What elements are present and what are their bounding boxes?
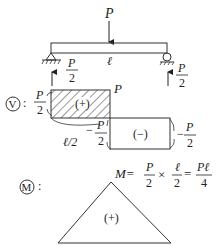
formula-f2-num: ℓ <box>175 160 180 174</box>
shear-colon: : <box>23 96 26 110</box>
right-reaction-den: 2 <box>179 76 185 90</box>
formula-f3-num: Pℓ <box>196 160 209 174</box>
shear-mid-den: 2 <box>98 134 104 148</box>
shear-negative-sign: (−) <box>133 127 148 141</box>
moment-diagram: M : M= P 2 × ℓ 2 = Pℓ 4 (+) <box>20 160 212 243</box>
shear-top-right-label: P <box>113 81 122 96</box>
moment-colon: : <box>38 179 41 193</box>
shear-left-num: P <box>35 88 44 102</box>
right-reaction-num: P <box>177 61 186 75</box>
load-label: P <box>104 6 114 21</box>
left-reaction-num: P <box>67 56 76 70</box>
formula-f2-den: 2 <box>174 176 180 190</box>
beam-section: P P 2 ℓ P 2 <box>42 6 188 90</box>
shear-diagram: V : P 2 (+) P (−) ℓ/2 − P 2 − P 2 <box>6 81 196 150</box>
beam <box>51 43 167 53</box>
formula-lhs: M= <box>114 166 135 181</box>
shear-mid-label: ℓ/2 <box>63 135 77 149</box>
shear-right-num: P <box>185 120 194 134</box>
formula-times: × <box>158 167 165 182</box>
shear-symbol: V <box>9 98 17 110</box>
shear-right-den: 2 <box>187 136 193 150</box>
shear-right-sign: − <box>177 127 184 141</box>
shear-mid-num: P <box>96 118 105 132</box>
span-label: ℓ <box>107 54 112 68</box>
beam-analysis-diagram: P P 2 ℓ P 2 <box>0 0 219 245</box>
formula-f3-den: 4 <box>201 176 207 190</box>
shear-mid-neg-sign: − <box>86 123 93 137</box>
pin-support-icon <box>42 53 61 64</box>
formula-f1-num: P <box>145 160 154 174</box>
left-reaction-den: 2 <box>69 71 75 85</box>
moment-positive-sign: (+) <box>104 211 119 225</box>
formula-f1-den: 2 <box>146 176 152 190</box>
formula-eq: = <box>184 166 191 181</box>
roller-support-icon <box>160 53 174 65</box>
shear-left-den: 2 <box>37 103 43 117</box>
moment-symbol: M <box>22 181 32 193</box>
shear-positive-sign: (+) <box>75 97 90 111</box>
